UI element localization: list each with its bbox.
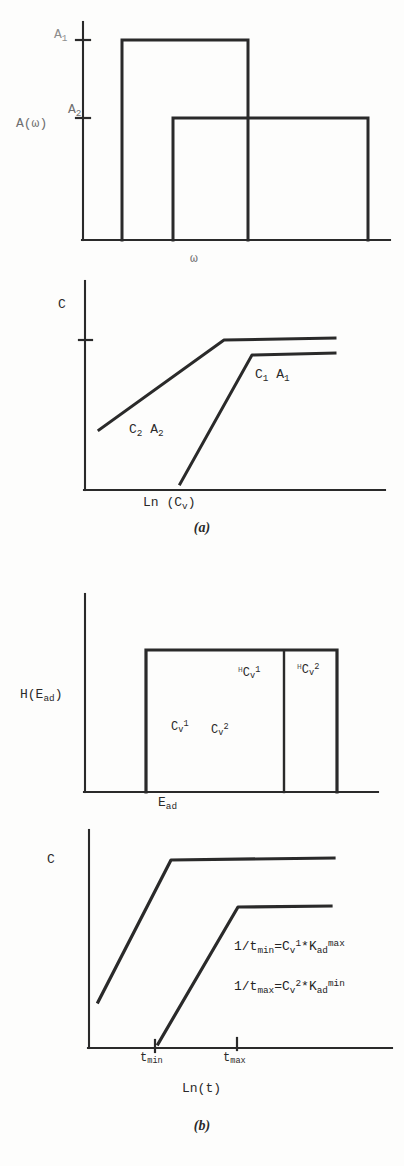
pulse-2 <box>173 118 368 240</box>
y-axis-label: C <box>58 298 66 311</box>
panel-b-top: H(Ead) Ead HCv1 HCv2 Cv1 Cv2 <box>0 568 404 818</box>
equation-tmin: 1/tmin=Cv1*Kadmax <box>234 938 345 956</box>
panel-a-top: A1 A2 A(ω) ω <box>0 0 404 275</box>
x-tick-label-t-max: tmax <box>223 1052 246 1066</box>
tick-label-A2: A2 <box>68 103 81 118</box>
equation-tmax: 1/tmax=Cv2*Kadmin <box>234 978 345 996</box>
caption-b: (b) <box>0 1118 404 1134</box>
panel-a-bottom: C C2 A2 C1 A1 Ln (Cv) <box>0 268 404 533</box>
label-Cv-2: Cv2 <box>211 723 229 738</box>
x-axis-label: Ln (Cv) <box>143 496 195 511</box>
panel-b-bottom: C tmin tmax Ln(t) 1/tmin=Cv1*Kadmax 1/tm… <box>0 820 404 1120</box>
x-axis-label: Ead <box>158 796 177 811</box>
label-Cv-1: Cv1 <box>171 720 189 735</box>
y-axis-label: H(Ead) <box>20 688 62 703</box>
x-axis-label: Ln(t) <box>182 1082 221 1095</box>
x-tick-label-t-min: tmin <box>140 1052 163 1066</box>
x-axis-label: ω <box>190 252 198 265</box>
tick-label-A1: A1 <box>54 28 67 43</box>
caption-a: (a) <box>0 520 404 536</box>
curve-lower <box>158 906 331 1044</box>
figure-page: A1 A2 A(ω) ω C C2 A2 C1 A1 Ln (Cv) <box>0 0 404 1166</box>
panel-b-bottom-plot <box>0 820 404 1120</box>
label-H-Cv-1: HCv1 <box>238 666 260 681</box>
pulse-1 <box>122 40 248 240</box>
label-H-Cv-2: HCv2 <box>297 663 319 678</box>
curve-label-c1-a1: C1 A1 <box>255 368 290 383</box>
y-axis-label: C <box>47 853 55 866</box>
curve-label-c2-a2: C2 A2 <box>129 423 164 438</box>
y-axis-label: A(ω) <box>16 117 47 130</box>
